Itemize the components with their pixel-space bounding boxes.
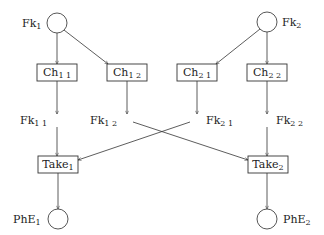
transition-ch22: Ch2 2 [247, 64, 287, 81]
place-circle [257, 12, 277, 32]
place-label: PhE2 [283, 213, 311, 227]
petri-net-diagram: Fk1 Fk2 PhE1 PhE2 Fk1 1 Fk1 2 Fk2 1 Fk2 … [0, 0, 324, 235]
transition-take1: Take1 [38, 156, 78, 173]
transition-ch21: Ch2 1 [177, 64, 217, 81]
place-phe1: PhE1 [13, 209, 68, 229]
place-fk2: Fk2 [257, 12, 301, 32]
place-circle [48, 209, 68, 229]
arc-fk2-ch21 [216, 29, 260, 64]
label-fk12: Fk1 2 [90, 114, 117, 128]
place-circle [47, 13, 67, 33]
place-fk1: Fk1 [22, 13, 67, 33]
arcs [57, 29, 267, 209]
label-fk22: Fk2 2 [276, 114, 303, 128]
place-label: Fk1 [22, 17, 41, 31]
arc-fk1-ch12 [64, 30, 108, 64]
transition-ch11: Ch1 1 [37, 64, 77, 81]
transition-take2: Take2 [248, 156, 288, 173]
place-phe2: PhE2 [257, 209, 311, 229]
arc-fk21-take1 [78, 122, 190, 160]
place-label: PhE1 [13, 213, 41, 227]
label-fk21: Fk2 1 [206, 114, 233, 128]
label-fk11: Fk1 1 [20, 114, 47, 128]
transition-ch12: Ch1 2 [107, 64, 147, 81]
place-circle [257, 209, 277, 229]
place-label: Fk2 [282, 16, 301, 30]
